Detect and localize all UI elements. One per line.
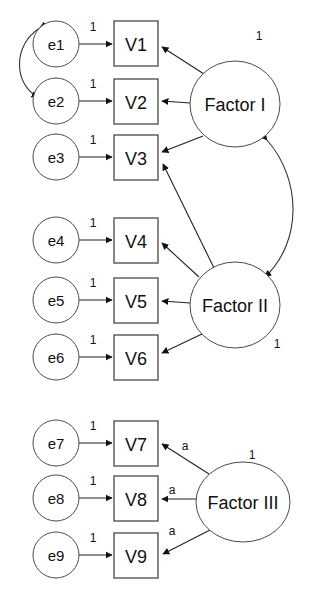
coefficient-label-e9-V9: 1 xyxy=(90,531,97,545)
variable-node-V5[interactable]: V5 xyxy=(114,278,158,323)
error-label-e4: e4 xyxy=(48,232,65,249)
error-node-e5[interactable]: e5 xyxy=(33,277,79,323)
error-node-e6[interactable]: e6 xyxy=(33,334,79,380)
variable-label-V5: V5 xyxy=(125,292,147,312)
coefficient-label-e2-V2: 1 xyxy=(90,77,97,91)
error-label-e7: e7 xyxy=(48,435,65,452)
path-factor2-V5 xyxy=(162,301,190,303)
coefficient-label-e3-V3: 1 xyxy=(90,133,97,147)
variable-label-V8: V8 xyxy=(125,490,147,510)
loading-label-factor3-V8: a xyxy=(169,483,176,497)
error-label-e2: e2 xyxy=(48,93,65,110)
error-node-e8[interactable]: e8 xyxy=(33,475,79,521)
error-label-e6: e6 xyxy=(48,349,65,366)
path-factor2-V4 xyxy=(162,243,199,277)
factor-label-factor-1: Factor I xyxy=(204,95,265,115)
variable-node-group: V1 V2 V3 V4 V5 V6 xyxy=(114,21,158,578)
variable-label-V2: V2 xyxy=(125,93,147,113)
variable-node-V3[interactable]: V3 xyxy=(114,135,158,180)
factor-label-factor-3: Factor III xyxy=(207,493,278,513)
error-node-e1[interactable]: e1 xyxy=(33,21,79,67)
coefficient-label-e8-V8: 1 xyxy=(90,474,97,488)
error-node-e7[interactable]: e7 xyxy=(33,420,79,466)
error-label-e9: e9 xyxy=(48,547,65,564)
variance-label-factor-3: 1 xyxy=(249,448,256,462)
error-node-e9[interactable]: e9 xyxy=(33,532,79,578)
variable-node-V6[interactable]: V6 xyxy=(114,335,158,380)
variable-label-V3: V3 xyxy=(125,149,147,169)
path-factor1-V1 xyxy=(162,47,204,74)
variable-node-V1[interactable]: V1 xyxy=(114,21,158,66)
coefficient-label-e1-V1: 1 xyxy=(90,20,97,34)
coefficient-label-e7-V7: 1 xyxy=(90,419,97,433)
loading-label-factor3-V7: a xyxy=(182,439,189,453)
coefficient-label-e6-V6: 1 xyxy=(90,333,97,347)
variable-node-V7[interactable]: V7 xyxy=(114,421,158,466)
path-factor2-V6 xyxy=(162,334,202,353)
error-label-e3: e3 xyxy=(48,149,65,166)
sem-path-diagram: e1 e2 e3 e4 e5 e6 xyxy=(0,0,314,595)
variance-label-factor-1: 1 xyxy=(256,29,263,43)
error-node-e2[interactable]: e2 xyxy=(33,78,79,124)
loading-label-factor3-V9: a xyxy=(169,524,176,538)
diagram-canvas: e1 e2 e3 e4 e5 e6 xyxy=(0,0,314,595)
coefficient-label-e5-V5: 1 xyxy=(90,276,97,290)
variable-node-V9[interactable]: V9 xyxy=(114,533,158,578)
covariance-factor1-factor2 xyxy=(265,140,293,277)
factor-label-factor-2: Factor II xyxy=(202,296,268,316)
variable-node-V8[interactable]: V8 xyxy=(114,476,158,521)
path-factor1-V2 xyxy=(162,101,190,103)
constrained-loading-label-group: a a a xyxy=(169,439,189,538)
error-coefficient-label-group: 1 1 1 1 1 1 1 1 1 xyxy=(90,20,97,545)
path-factor2-V3 xyxy=(163,164,214,268)
error-label-e8: e8 xyxy=(48,490,65,507)
factor-node-factor-1[interactable]: Factor I xyxy=(190,61,280,147)
variable-node-V4[interactable]: V4 xyxy=(114,218,158,263)
error-label-e1: e1 xyxy=(48,36,65,53)
variable-label-V4: V4 xyxy=(125,232,147,252)
variable-label-V9: V9 xyxy=(125,547,147,567)
factor-node-group: Factor I Factor II Factor III xyxy=(190,61,290,542)
variable-label-V1: V1 xyxy=(125,35,147,55)
factor-node-factor-3[interactable]: Factor III xyxy=(196,462,290,542)
error-node-e3[interactable]: e3 xyxy=(33,134,79,180)
error-label-e5: e5 xyxy=(48,292,65,309)
variable-node-V2[interactable]: V2 xyxy=(114,79,158,124)
error-node-e4[interactable]: e4 xyxy=(33,217,79,263)
variance-label-factor-2: 1 xyxy=(274,337,281,351)
coefficient-label-e4-V4: 1 xyxy=(90,216,97,230)
variable-label-V7: V7 xyxy=(125,435,147,455)
factor-node-factor-2[interactable]: Factor II xyxy=(190,262,280,348)
error-node-group: e1 e2 e3 e4 e5 e6 xyxy=(33,21,79,578)
variable-label-V6: V6 xyxy=(125,349,147,369)
path-factor1-V3 xyxy=(162,136,203,152)
